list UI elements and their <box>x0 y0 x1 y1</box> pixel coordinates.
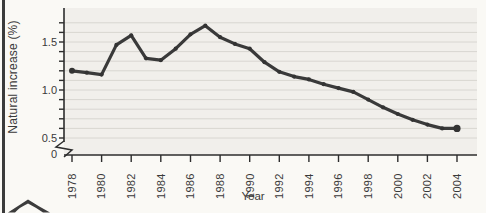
data-point-1999 <box>381 105 385 109</box>
x-tick-label: 1986 <box>184 173 196 199</box>
x-tick-label: 1992 <box>273 173 285 199</box>
data-point-1987 <box>203 24 207 28</box>
x-tick-label: 1984 <box>155 173 167 199</box>
y-tick-label: 1.0 <box>42 84 57 96</box>
data-point-1978 <box>69 68 75 74</box>
x-tick-label: 2000 <box>392 173 404 199</box>
data-point-2000 <box>396 112 400 116</box>
chart-canvas: 00.51.01.5197819801982198419861988199019… <box>0 0 486 213</box>
x-tick-label: 1980 <box>95 173 107 199</box>
data-point-1994 <box>307 77 311 81</box>
chevron-shape <box>8 200 50 213</box>
scanned-figure: noihslqoq Isnoitsn sdt ni sassioni Isiut… <box>0 0 486 213</box>
x-tick-label: 1982 <box>125 173 137 199</box>
data-point-1981 <box>114 43 118 47</box>
data-point-2003 <box>440 126 444 130</box>
data-point-1993 <box>292 75 296 79</box>
x-tick-label: 1988 <box>214 173 226 199</box>
data-point-1983 <box>144 56 148 60</box>
plot-area <box>64 8 477 155</box>
data-point-1988 <box>218 35 222 39</box>
y-tick-label: 0.5 <box>42 132 57 144</box>
data-point-1984 <box>159 58 163 62</box>
data-point-1991 <box>262 60 266 64</box>
data-point-1996 <box>336 86 340 90</box>
data-point-1998 <box>366 98 370 102</box>
data-point-1997 <box>351 90 355 94</box>
data-point-1982 <box>129 33 133 37</box>
x-axis-title: Year <box>241 190 264 202</box>
data-point-1985 <box>174 47 178 51</box>
x-tick-label: 2004 <box>451 173 463 199</box>
data-point-2004 <box>453 125 460 132</box>
data-point-2001 <box>411 118 415 122</box>
y-tick-label: 0 <box>51 148 57 160</box>
data-point-2002 <box>425 123 429 127</box>
x-tick-label: 1998 <box>362 173 374 199</box>
data-point-1992 <box>277 70 281 74</box>
data-point-1986 <box>188 32 192 36</box>
data-point-1989 <box>233 42 237 46</box>
y-axis-title: Natural increase (%) <box>6 20 20 133</box>
data-point-1980 <box>100 73 104 77</box>
x-tick-label: 2002 <box>421 173 433 199</box>
y-tick-label: 1.5 <box>42 36 57 48</box>
x-tick-label: 1978 <box>66 173 78 199</box>
data-point-1995 <box>322 82 326 86</box>
x-tick-label: 1996 <box>332 173 344 199</box>
data-point-1979 <box>85 71 89 75</box>
x-tick-label: 1994 <box>303 173 315 199</box>
data-point-1990 <box>248 47 252 51</box>
page-corner-chevron-icon <box>7 198 51 213</box>
